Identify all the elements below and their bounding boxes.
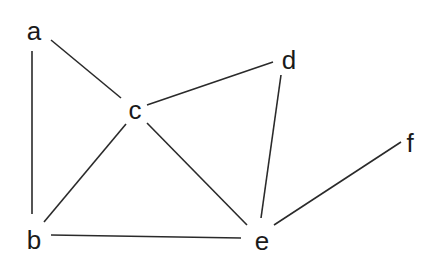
node-e: e — [255, 226, 269, 256]
edge-e-f — [274, 142, 401, 225]
node-d: d — [282, 45, 296, 75]
nodes: a b c d e f — [27, 16, 415, 256]
edge-c-e — [147, 123, 247, 225]
edge-c-b — [44, 124, 126, 222]
graph-diagram: a b c d e f — [0, 0, 438, 267]
node-c: c — [129, 95, 142, 125]
edges — [32, 40, 401, 238]
node-a: a — [27, 16, 42, 46]
edge-c-d — [147, 62, 273, 105]
edge-d-e — [261, 75, 281, 218]
node-f: f — [406, 128, 414, 158]
edge-a-c — [51, 40, 121, 98]
edge-b-e — [51, 235, 241, 238]
node-b: b — [27, 225, 41, 255]
